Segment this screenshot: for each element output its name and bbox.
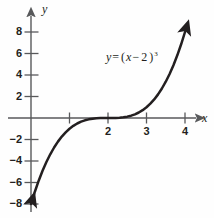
equation-exponent: 3: [154, 50, 158, 58]
y-tick-label-neg-8: −8: [2, 198, 22, 209]
y-tick-label-6: 6: [8, 48, 22, 59]
x-axis-label: x: [202, 112, 207, 124]
equation-minus: −: [131, 50, 140, 64]
x-tick-label-4: 4: [177, 126, 193, 137]
y-tick-label-neg-2: −2: [2, 134, 22, 145]
y-tick-label-4: 4: [8, 69, 22, 80]
x-tick-label-3: 3: [139, 126, 155, 137]
y-tick-label-neg-4: −4: [2, 155, 22, 166]
y-axis-label: y: [42, 3, 47, 15]
x-tick-label-2: 2: [100, 126, 116, 137]
y-tick-label-neg-6: −6: [2, 177, 22, 188]
y-tick-label-2: 2: [8, 91, 22, 102]
graph-figure: y=(x−2)3 y x 8 6 4 2 −2 −4 −6 −8 2 3 4: [0, 0, 214, 218]
y-tick-label-8: 8: [8, 26, 22, 37]
equation-equals: =: [111, 50, 120, 64]
plot-canvas: [0, 0, 214, 218]
equation-annotation: y=(x−2)3: [106, 51, 158, 63]
